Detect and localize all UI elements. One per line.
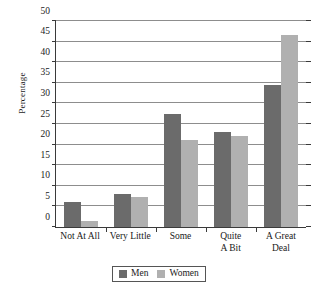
bar-women <box>281 35 298 227</box>
plot-area: 05101520253035404550 <box>55 21 306 228</box>
bar-chart: Percentage 05101520253035404550 Not At A… <box>0 0 321 291</box>
y-axis-tick-right <box>306 123 311 124</box>
x-axis-label-line: Deal <box>256 243 306 255</box>
x-axis-labels: Not At AllVery LittleSomeQuiteA BitA Gre… <box>55 231 306 254</box>
y-axis-tick-label: 45 <box>41 27 51 37</box>
bar-women <box>181 140 198 227</box>
y-axis-tick-label: 0 <box>45 213 50 223</box>
y-axis-tick-label: 25 <box>41 110 51 120</box>
bar-men <box>64 202 81 227</box>
y-axis-tick-right <box>306 41 311 42</box>
bar-women <box>131 197 148 227</box>
y-axis-tick-label: 50 <box>41 7 51 17</box>
y-axis-tick-label: 10 <box>41 172 51 182</box>
y-axis-title: Percentage <box>17 43 27 143</box>
y-axis-tick-right <box>306 61 311 62</box>
bar-women <box>81 221 98 227</box>
x-axis-label-line: Very Little <box>110 231 151 241</box>
bar-men <box>114 194 131 227</box>
x-axis-label-very-little: Very Little <box>105 231 155 254</box>
y-axis-tick-label: 30 <box>41 89 51 99</box>
legend-label: Women <box>169 269 198 279</box>
bar-group <box>156 21 206 227</box>
x-axis-label-line: Some <box>170 231 192 241</box>
x-axis-label-quite-a-bit: QuiteA Bit <box>206 231 256 254</box>
bar-men <box>214 132 231 227</box>
y-axis-tick-label: 5 <box>45 192 50 202</box>
legend-entry-men: Men <box>119 269 148 279</box>
y-axis-tick-right <box>306 102 311 103</box>
bar-women <box>231 136 248 227</box>
y-axis-tick-label: 40 <box>41 48 51 58</box>
legend-label: Men <box>131 269 148 279</box>
bar-men <box>164 114 181 227</box>
legend-entry-women: Women <box>157 269 198 279</box>
bar-men <box>264 85 281 227</box>
men-swatch <box>119 270 127 278</box>
x-axis-label-line: A Bit <box>206 243 256 255</box>
x-axis-label-some: Some <box>155 231 205 254</box>
y-axis-tick-label: 35 <box>41 69 51 79</box>
y-axis-tick-right <box>306 82 311 83</box>
y-axis-tick-right <box>306 20 311 21</box>
x-axis-label-line: Not At All <box>60 231 100 241</box>
y-axis-tick-right <box>306 164 311 165</box>
bar-group <box>256 21 306 227</box>
x-axis-label-line: Quite <box>220 231 241 241</box>
bar-groups <box>56 21 306 227</box>
x-axis-label-line: A Great <box>266 231 296 241</box>
y-axis-tick-right <box>306 205 311 206</box>
y-axis-tick-label: 20 <box>41 130 51 140</box>
y-axis-tick-label: 15 <box>41 151 51 161</box>
y-axis-tick-right <box>306 144 311 145</box>
bar-group <box>206 21 256 227</box>
women-swatch <box>157 270 165 278</box>
x-axis-label-a-great-deal: A GreatDeal <box>256 231 306 254</box>
chart-legend: MenWomen <box>112 266 206 282</box>
bar-group <box>56 21 106 227</box>
y-axis-tick-right <box>306 185 311 186</box>
y-axis-tick-right <box>306 226 311 227</box>
bar-group <box>106 21 156 227</box>
x-axis-label-not-at-all: Not At All <box>55 231 105 254</box>
